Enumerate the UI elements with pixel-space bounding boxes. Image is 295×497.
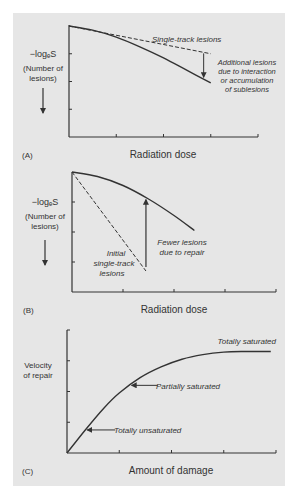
panel-a-ylabel-1: −logₑS [30,49,57,59]
panel-c-xlabel: Amount of damage [129,465,214,476]
panel-c-totally-unsaturated-label: Totally unsaturated [114,426,182,435]
panel-a-additional-label-4: of sublesions [225,85,269,94]
panel-a-xlabel: Radiation dose [130,149,197,160]
panel-a-additional-label-3: or accumulation [221,76,274,85]
panel-a-ylabel-3: lesions) [29,74,57,83]
panel-c-partially-saturated-label: Partially saturated [156,382,221,391]
panel-b-initial-label-3: lesions [100,269,125,278]
panel-a-single-track-label: Single-track lesions [152,35,221,44]
panel-c: Velocity of repair Totally saturated Par… [22,330,277,476]
panel-b-label: (B) [23,306,34,315]
panel-c-ylabel-2: of repair [23,371,53,380]
panel-a-label: (A) [22,151,33,160]
panel-c-repair-curve [67,351,271,453]
panel-a-ylabel-2: (Number of [23,64,64,73]
panel-a: −logₑS (Number of lesions) Single-track … [22,25,276,160]
panel-b-observed-curve [72,172,194,231]
panel-c-ylabel-1: Velocity [24,361,52,370]
figure-svg: −logₑS (Number of lesions) Single-track … [0,0,295,497]
panel-a-additional-label-1: Additional lesions [217,58,277,67]
panel-b-initial-label-2: single-track [94,259,136,268]
panel-b-fewer-label-2: due to repair [160,248,205,257]
panel-b: −logₑS (Number of lesions) Initial singl… [23,172,276,315]
panel-b-fewer-label-1: Fewer lesions [157,238,206,247]
panel-b-xlabel: Radiation dose [141,304,208,315]
panel-b-ylabel-3: lesions) [31,222,59,231]
panel-c-label: (C) [22,467,33,476]
panel-c-totally-saturated-label: Totally saturated [218,337,277,346]
panel-b-ylabel-2: (Number of [25,212,66,221]
panel-a-additional-label-2: due to interaction [218,67,276,76]
panel-b-ylabel-1: −logₑS [32,197,59,207]
panel-b-initial-label-1: Initial [107,249,126,258]
